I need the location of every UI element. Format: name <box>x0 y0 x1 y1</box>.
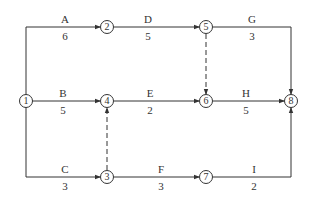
activity-b-name: B <box>59 88 66 99</box>
node-3-label: 3 <box>105 172 110 182</box>
node-1-label: 1 <box>24 96 29 106</box>
activity-h-duration: 5 <box>243 105 249 116</box>
activity-a-duration: 6 <box>62 31 68 42</box>
activity-f-name: F <box>158 164 164 175</box>
activity-g-duration: 3 <box>249 31 255 42</box>
activity-e-duration: 2 <box>147 105 153 116</box>
activity-i-duration: 2 <box>251 181 257 192</box>
node-6-label: 6 <box>204 96 209 106</box>
node-7-label: 7 <box>204 172 209 182</box>
activity-d-name: D <box>144 14 152 25</box>
activity-a-name: A <box>61 14 69 25</box>
activity-h-name: H <box>242 88 250 99</box>
activity-f-duration: 3 <box>158 181 164 192</box>
activity-d-duration: 5 <box>145 31 151 42</box>
activity-e-name: E <box>147 88 154 99</box>
node-4-label: 4 <box>105 96 110 106</box>
node-5-label: 5 <box>204 22 209 32</box>
node-2-label: 2 <box>105 22 110 32</box>
activity-i-name: I <box>252 164 256 175</box>
activity-c-duration: 3 <box>62 181 68 192</box>
node-8-label: 8 <box>289 96 294 106</box>
activity-c-name: C <box>61 164 68 175</box>
activity-g-name: G <box>248 14 256 25</box>
activity-b-duration: 5 <box>60 105 66 116</box>
